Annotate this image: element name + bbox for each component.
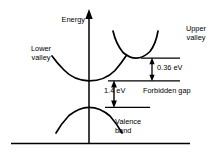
lower-valley-label: Lower valley xyxy=(18,45,64,62)
gap-14-ev-label: 1.4 eV xyxy=(104,87,138,96)
gap-036-ev-label: 0.36 eV xyxy=(157,64,207,73)
energy-axis-arrowhead-icon xyxy=(85,9,92,19)
valence-band-label: Valence band xyxy=(115,118,159,135)
band-diagram-figure: Energy Lower valley Upper valley 0.36 eV… xyxy=(0,0,223,156)
forbidden-gap-label: Forbidden gap xyxy=(143,87,213,96)
upper-valley-curve xyxy=(113,31,158,58)
energy-axis-label: Energy xyxy=(55,16,85,25)
upper-valley-label: Upper valley xyxy=(172,25,220,42)
